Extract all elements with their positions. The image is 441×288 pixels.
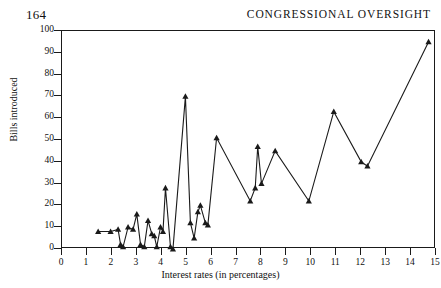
y-axis-tick <box>54 74 61 75</box>
y-axis-title: Bills introduced <box>8 50 19 170</box>
data-point-marker <box>255 143 261 149</box>
x-axis-tick-label: 12 <box>350 257 370 267</box>
y-axis-tick <box>54 161 61 162</box>
y-axis-tick <box>54 30 61 31</box>
y-axis-tick <box>54 183 61 184</box>
x-axis-tick <box>360 248 361 255</box>
data-point-marker <box>247 198 253 204</box>
x-axis-tick <box>236 248 237 255</box>
x-axis-tick <box>86 248 87 255</box>
data-point-marker <box>364 163 370 169</box>
y-axis-tick-label: 50 <box>20 133 54 143</box>
x-axis-tick-label: 6 <box>201 257 221 267</box>
y-axis-tick <box>54 52 61 53</box>
x-axis-title: Interest rates (in percentages) <box>0 269 441 280</box>
x-axis-tick-label: 8 <box>250 257 270 267</box>
x-axis-tick <box>260 248 261 255</box>
data-point-marker <box>213 135 219 141</box>
x-axis-tick <box>410 248 411 255</box>
y-axis-tick-label: 40 <box>20 155 54 165</box>
x-axis-tick-label: 5 <box>176 257 196 267</box>
data-point-marker <box>162 185 168 191</box>
data-point-marker <box>358 159 364 165</box>
x-axis-tick <box>285 248 286 255</box>
y-axis-tick-label: 0 <box>20 242 54 252</box>
data-series-line <box>62 31 436 249</box>
y-axis-tick <box>54 204 61 205</box>
y-axis-tick <box>54 248 61 249</box>
y-axis-tick-label: 80 <box>20 68 54 78</box>
x-axis-tick-label: 4 <box>151 257 171 267</box>
line-chart-figure: 0102030405060708090100 01234567891011121… <box>0 0 441 288</box>
y-axis-tick-label: 60 <box>20 111 54 121</box>
x-axis-tick-label: 3 <box>126 257 146 267</box>
y-axis-tick-label: 70 <box>20 89 54 99</box>
x-axis-tick <box>211 248 212 255</box>
series-line <box>98 42 428 249</box>
data-point-marker <box>130 226 136 232</box>
y-axis-tick <box>54 139 61 140</box>
x-axis-tick <box>385 248 386 255</box>
data-point-marker <box>425 39 431 45</box>
y-axis-tick <box>54 95 61 96</box>
page: 164 CONGRESSIONAL OVERSIGHT 010203040506… <box>0 0 441 288</box>
x-axis-tick-label: 1 <box>76 257 96 267</box>
y-axis-tick-label: 90 <box>20 46 54 56</box>
plot-area <box>61 30 435 248</box>
x-axis-tick-label: 7 <box>226 257 246 267</box>
x-axis-tick-label: 9 <box>275 257 295 267</box>
data-point-marker <box>125 224 131 230</box>
y-axis-tick <box>54 117 61 118</box>
x-axis-tick <box>111 248 112 255</box>
data-point-marker <box>331 109 337 115</box>
x-axis-tick <box>161 248 162 255</box>
data-point-marker <box>182 93 188 99</box>
x-axis-tick-label: 0 <box>51 257 71 267</box>
data-point-marker <box>187 220 193 226</box>
x-axis-tick-label: 10 <box>300 257 320 267</box>
x-axis-tick-label: 11 <box>325 257 345 267</box>
data-point-marker <box>115 226 121 232</box>
data-point-marker <box>137 242 143 248</box>
data-point-marker <box>134 211 140 217</box>
data-point-marker <box>145 218 151 224</box>
x-axis-tick <box>335 248 336 255</box>
y-axis-tick <box>54 226 61 227</box>
data-point-marker <box>157 224 163 230</box>
data-point-marker <box>272 148 278 154</box>
y-axis-tick-label: 100 <box>20 24 54 34</box>
x-axis-tick <box>435 248 436 255</box>
y-axis-tick-label: 30 <box>20 177 54 187</box>
x-axis-tick <box>61 248 62 255</box>
x-axis-tick-label: 13 <box>375 257 395 267</box>
x-axis-tick-label: 14 <box>400 257 420 267</box>
data-point-marker <box>154 244 160 250</box>
x-axis-tick <box>310 248 311 255</box>
data-point-marker <box>252 185 258 191</box>
data-point-marker <box>195 209 201 215</box>
y-axis-tick-label: 20 <box>20 198 54 208</box>
data-point-marker <box>258 181 264 187</box>
x-axis-tick-label: 15 <box>425 257 441 267</box>
data-point-marker <box>191 235 197 241</box>
x-axis-tick <box>136 248 137 255</box>
data-point-marker <box>197 202 203 208</box>
x-axis-tick-label: 2 <box>101 257 121 267</box>
y-axis-tick-label: 10 <box>20 220 54 230</box>
x-axis-tick <box>186 248 187 255</box>
